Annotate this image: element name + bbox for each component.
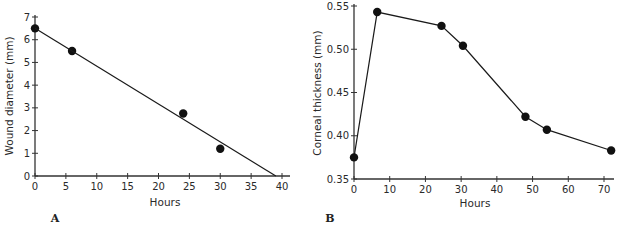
x-tick-label: 20 xyxy=(419,184,432,195)
y-tick-label: 5 xyxy=(24,57,30,68)
chart-panel-b: 0102030405060700.350.400.450.500.55 Hour… xyxy=(311,1,615,226)
x-tick-label: 70 xyxy=(598,184,611,195)
x-tick-label: 60 xyxy=(562,184,575,195)
y-tick-label: 6 xyxy=(24,34,30,45)
chart-b-x-axis-label: Hours xyxy=(460,197,491,209)
y-tick-label: 4 xyxy=(24,80,30,91)
data-point xyxy=(459,42,467,50)
x-tick-label: 40 xyxy=(490,184,503,195)
data-point xyxy=(437,22,445,30)
x-tick-label: 20 xyxy=(152,181,165,192)
chart-a-axes: 051015202530354001234567 xyxy=(24,12,290,193)
x-tick-label: 10 xyxy=(90,181,103,192)
y-tick-label: 3 xyxy=(24,102,30,113)
y-tick-label: 0 xyxy=(24,171,30,182)
data-point xyxy=(179,109,187,117)
chart-b-plot-area xyxy=(350,8,616,162)
x-tick-label: 30 xyxy=(214,181,227,192)
y-tick-label: 0.40 xyxy=(327,130,349,141)
data-line xyxy=(35,28,276,176)
y-tick-label: 0.45 xyxy=(327,87,349,98)
x-tick-label: 25 xyxy=(183,181,196,192)
data-point xyxy=(216,145,224,153)
chart-a-panel-label: A xyxy=(50,212,60,225)
data-line xyxy=(354,12,611,157)
chart-panel-a: 051015202530354001234567 Hours Wound dia… xyxy=(3,12,290,226)
x-tick-label: 35 xyxy=(245,181,258,192)
x-tick-label: 40 xyxy=(276,181,289,192)
x-tick-label: 0 xyxy=(351,184,357,195)
x-tick-label: 0 xyxy=(32,181,38,192)
x-tick-label: 50 xyxy=(526,184,539,195)
figure: 051015202530354001234567 Hours Wound dia… xyxy=(0,0,618,229)
chart-a-y-axis-label: Wound diameter (mm) xyxy=(3,36,15,155)
data-point xyxy=(543,125,551,133)
y-tick-label: 0.55 xyxy=(327,1,349,12)
chart-a-x-axis-label: Hours xyxy=(150,196,181,208)
x-tick-label: 5 xyxy=(63,181,69,192)
x-tick-label: 15 xyxy=(121,181,134,192)
data-point xyxy=(521,113,529,121)
y-tick-label: 2 xyxy=(24,125,30,136)
y-tick-label: 7 xyxy=(24,12,30,23)
chart-b-axes: 0102030405060700.350.400.450.500.55 xyxy=(327,1,614,196)
y-tick-label: 1 xyxy=(24,148,30,159)
chart-a-plot-area xyxy=(31,24,276,176)
y-tick-label: 0.35 xyxy=(327,174,349,185)
data-point xyxy=(350,153,358,161)
chart-b-y-axis-label: Corneal thickness (mm) xyxy=(311,30,323,155)
x-tick-label: 10 xyxy=(383,184,396,195)
y-tick-label: 0.50 xyxy=(327,44,349,55)
data-point xyxy=(373,8,381,16)
chart-b-panel-label: B xyxy=(325,212,334,225)
data-point xyxy=(607,146,615,154)
x-tick-label: 30 xyxy=(455,184,468,195)
